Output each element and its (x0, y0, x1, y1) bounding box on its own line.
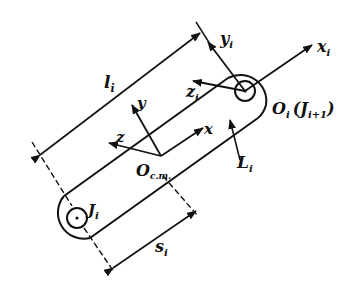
com-origin-label: Oc.m. (136, 161, 171, 181)
frame-i-y-label: yi (219, 29, 233, 50)
link-label: Li (236, 152, 253, 174)
com-x-label: x (203, 120, 214, 138)
origin-frame-label: Oi(Ji+1) (272, 99, 335, 120)
joint-base-center-dot (75, 216, 78, 219)
com-z-label: z (115, 128, 125, 146)
com-offset-label: si (154, 237, 168, 258)
joint-base-label: Ji (85, 201, 99, 221)
length-label: li (104, 72, 115, 95)
frame-i-x-label: xi (316, 37, 331, 58)
extension-lines (32, 22, 210, 272)
frame-i-z-label: zi (185, 82, 199, 103)
com-y-label: y (136, 94, 147, 112)
robot-link-diagram: li si xi yi zi Oi(Ji+1) x y z Oc.m. Li J… (0, 0, 361, 284)
